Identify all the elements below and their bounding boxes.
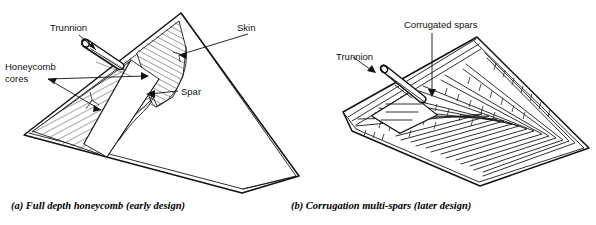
label-honeycomb-cores-line1: Honeycomb [5,61,56,72]
label-skin: Skin [237,22,255,33]
label-trunnion-b: Trunnion [336,51,373,62]
root-rib-b [372,93,437,133]
label-corrugated-spars: Corrugated spars [404,19,478,30]
arrowhead-corrugated-spars [428,89,436,97]
label-trunnion-a: Trunnion [50,22,87,33]
caption-panel-a: (a) Full depth honeycomb (early design) [11,200,185,212]
arrowhead-trunnion-b [367,65,376,73]
caption-panel-b: (b) Corrugation multi-spars (later desig… [291,200,471,212]
leaders-panel-b [353,33,436,97]
wing-structure-figure: Trunnion Honeycomb cores Skin Spar [0,0,596,225]
leader-skin [179,34,248,55]
figure-root: Trunnion Honeycomb cores Skin Spar [0,0,596,225]
label-honeycomb-cores-line2: cores [5,73,28,84]
panel-a-diagram: Trunnion Honeycomb cores Skin Spar [5,10,299,193]
label-spar: Spar [181,86,201,97]
spar-bay [419,86,534,158]
panel-b-diagram: Corrugated spars Trunnion [336,19,589,186]
